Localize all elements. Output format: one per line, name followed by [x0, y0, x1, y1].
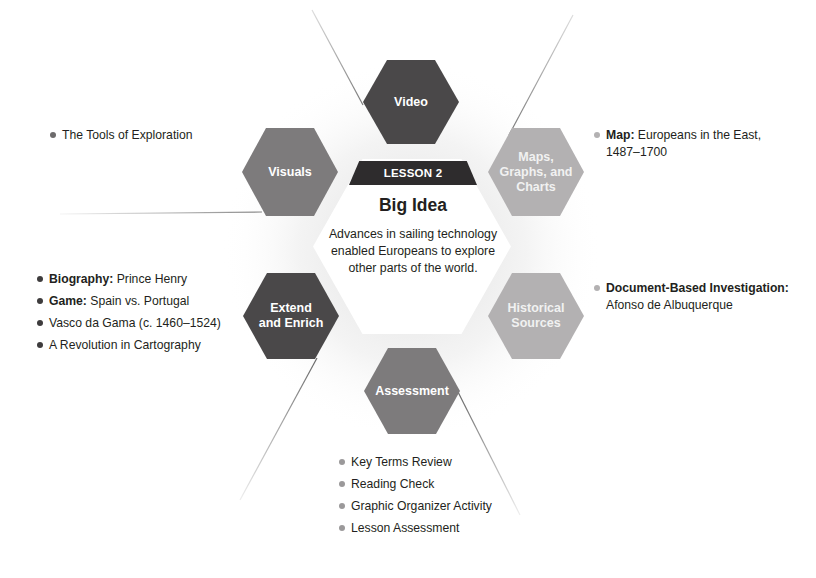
historical-list: Document-Based Investigation: Afonso de …: [594, 280, 789, 319]
list-item[interactable]: Map: Europeans in the East, 1487–1700: [594, 127, 761, 161]
lesson-label: LESSON 2: [349, 161, 477, 185]
list-item[interactable]: Biography: Prince Henry: [37, 271, 221, 288]
list-item[interactable]: Vasco da Gama (c. 1460–1524): [37, 315, 221, 332]
historical-label-line2: Sources: [504, 316, 569, 331]
list-item[interactable]: A Revolution in Cartography: [37, 337, 221, 354]
list-item[interactable]: Game: Spain vs. Portugal: [37, 293, 221, 310]
list-item[interactable]: Graphic Organizer Activity: [339, 498, 492, 515]
extend-list: Biography: Prince Henry Game: Spain vs. …: [37, 271, 221, 359]
visuals-label: Visuals: [264, 165, 316, 180]
video-label: Video: [390, 95, 432, 110]
list-item[interactable]: Key Terms Review: [339, 454, 492, 471]
visuals-list: The Tools of Exploration: [50, 127, 193, 149]
list-item[interactable]: Lesson Assessment: [339, 520, 492, 537]
extend-label-line2: and Enrich: [255, 316, 328, 331]
list-item[interactable]: Reading Check: [339, 476, 492, 493]
assessment-label: Assessment: [371, 384, 453, 399]
maps-label-line3: Charts: [496, 180, 577, 195]
list-item[interactable]: Document-Based Investigation: Afonso de …: [594, 280, 789, 314]
list-item[interactable]: The Tools of Exploration: [50, 127, 193, 144]
historical-label-line1: Historical: [504, 301, 569, 316]
big-idea-text: Advances in sailing technology enabled E…: [325, 226, 501, 277]
assessment-list: Key Terms Review Reading Check Graphic O…: [339, 454, 492, 542]
maps-list: Map: Europeans in the East, 1487–1700: [594, 127, 761, 166]
maps-label-line2: Graphs, and: [496, 165, 577, 180]
big-idea-title: Big Idea: [340, 195, 486, 216]
extend-label-line1: Extend: [255, 301, 328, 316]
maps-label-line1: Maps,: [496, 150, 577, 165]
